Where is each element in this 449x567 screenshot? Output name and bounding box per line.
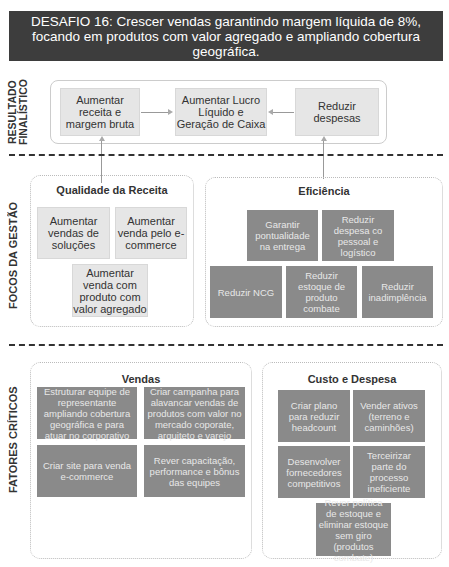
custo-despesa-title: Custo e Despesa: [262, 373, 442, 385]
fatores-item: Criar site para venda e-commerce: [37, 445, 137, 497]
arrow-right-icon: [168, 109, 173, 115]
focos-item: Reduzir estoque de produto combate: [286, 266, 357, 318]
focos-item: Aumentar vendas de soluções: [37, 207, 110, 259]
fatores-item: Rever capacitação, performance e bônus d…: [144, 445, 245, 497]
focos-item: Garantir pontualidade na entrega: [247, 210, 318, 261]
fatores-item: Vender ativos (terreno e caminhões): [353, 390, 425, 442]
connector-line: [141, 112, 168, 113]
challenge-header: DESAFIO 16: Crescer vendas garantindo ma…: [9, 11, 443, 61]
section-label-focos: FOCOS DA GESTÃO: [8, 200, 24, 310]
focos-item: Reduzir despesa co pessoal e logístico: [322, 210, 394, 261]
vendas-title: Vendas: [30, 373, 252, 385]
resultado-box-lucro: Aumentar Lucro Líquido e Geração de Caix…: [175, 88, 267, 136]
fatores-item: Rever política de estoque e eliminar est…: [316, 503, 391, 556]
fatores-item: Estruturar equipe de representante ampli…: [37, 387, 137, 439]
connector-line: [323, 141, 324, 179]
resultado-box-receita: Aumentar receita e margem bruta: [60, 88, 140, 136]
arrow-up-icon: [99, 136, 105, 141]
eficiencia-title: Eficiência: [205, 185, 443, 197]
fatores-item: Criar campanha para alavancar vendas de …: [144, 387, 245, 439]
section-label-resultado: RESULTADO FINALÍSTICO: [7, 78, 31, 146]
focos-item: Aumentar venda com produto com valor agr…: [72, 264, 148, 317]
focos-item: Reduzir NCG: [210, 266, 282, 318]
fatores-item: Criar plano para reduzir headcount: [278, 390, 350, 442]
fatores-item: Terceirizar parte do processo ineficient…: [353, 446, 425, 498]
resultado-box-despesas: Reduzir despesas: [295, 88, 379, 136]
section-divider: [9, 154, 443, 156]
challenge-title: DESAFIO 16: Crescer vendas garantindo ma…: [19, 14, 433, 59]
section-label-fatores: FATORES CRÍTICOS: [8, 385, 24, 495]
focos-item: Reduzir inadimplência: [362, 266, 433, 318]
focos-item: Aumentar venda pelo e-commerce: [115, 207, 187, 259]
section-divider: [9, 344, 443, 346]
connector-line: [273, 112, 294, 113]
qualidade-receita-title: Qualidade da Receita: [30, 184, 194, 196]
arrow-up-icon: [321, 136, 327, 141]
fatores-item: Desenvolver fornecedores competitivos: [278, 446, 350, 498]
